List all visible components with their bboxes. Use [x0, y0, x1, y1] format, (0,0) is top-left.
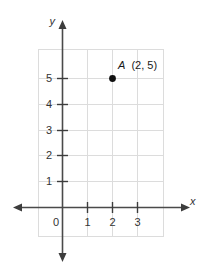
x-tick-label-0: 0: [53, 216, 59, 228]
coordinate-plane-graph: 5 4 3 2 1 0 1 2 3 x y A (2, 5): [0, 0, 202, 272]
y-axis-name-label: y: [49, 15, 57, 27]
x-tick-label-2: 2: [109, 216, 115, 228]
y-tick-label-2: 2: [46, 149, 52, 161]
graph-svg: 5 4 3 2 1 0 1 2 3 x y A (2, 5): [0, 0, 202, 272]
y-tick-label-5: 5: [46, 72, 52, 84]
x-axis-right-arrowhead-icon: [181, 204, 190, 212]
x-axis-left-arrowhead-icon: [13, 204, 22, 212]
y-tick-label-3: 3: [46, 124, 52, 136]
data-point-a-label-name: A: [117, 59, 125, 71]
x-tick-label-1: 1: [84, 216, 90, 228]
grid-background: [38, 49, 164, 237]
y-axis-up-arrowhead-icon: [59, 20, 67, 29]
y-tick-label-4: 4: [46, 98, 52, 110]
y-tick-label-1: 1: [46, 175, 52, 187]
y-axis-down-arrowhead-icon: [59, 253, 67, 262]
data-point-a-label: A (2, 5): [117, 59, 157, 71]
data-point-a[interactable]: [109, 75, 116, 82]
x-tick-label-3: 3: [134, 216, 140, 228]
x-axis-name-label: x: [189, 195, 196, 207]
data-point-a-label-coords: (2, 5): [131, 59, 157, 71]
